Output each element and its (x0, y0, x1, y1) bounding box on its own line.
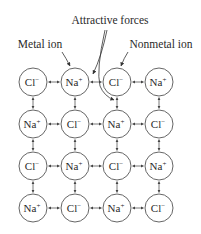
sodium-ion: Na+ (19, 194, 47, 222)
chloride-ion: Cl− (61, 194, 89, 222)
chloride-ion: Cl− (19, 68, 47, 96)
chloride-ion: Cl− (103, 68, 131, 96)
chloride-ion: Cl− (145, 194, 173, 222)
chloride-ion: Cl− (61, 110, 89, 138)
chloride-ion: Cl− (145, 110, 173, 138)
ionic-lattice-diagram: Attractive forces Metal ion Nonmetal ion… (0, 0, 201, 234)
sodium-ion: Na+ (103, 194, 131, 222)
nonmetal-ion-pointer-arrow (121, 52, 128, 66)
sodium-ion: Na+ (145, 152, 173, 180)
sodium-ion: Na+ (61, 68, 89, 96)
sodium-ion: Na+ (19, 110, 47, 138)
metal-ion-label: Metal ion (18, 38, 63, 50)
metal-ion-pointer-arrow (62, 52, 70, 66)
nonmetal-ion-label: Nonmetal ion (130, 38, 193, 50)
attractive-force-arrows (33, 82, 159, 208)
sodium-ion: Na+ (145, 68, 173, 96)
chloride-ion: Cl− (19, 152, 47, 180)
attractive-forces-label: Attractive forces (72, 14, 149, 26)
attractive-force-pointer-horizontal (93, 30, 107, 74)
ion-grid: Cl−Na+Cl−Na+Na+Cl−Na+Cl−Cl−Na+Cl−Na+Na+C… (19, 68, 173, 222)
caption-cutoff (0, 230, 201, 234)
chloride-ion: Cl− (103, 152, 131, 180)
sodium-ion: Na+ (103, 110, 131, 138)
sodium-ion: Na+ (61, 152, 89, 180)
